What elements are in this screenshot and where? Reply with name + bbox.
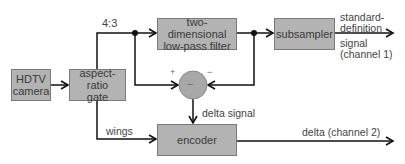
junction-dot-2 xyxy=(251,30,257,36)
encoder-label: encoder xyxy=(177,134,217,146)
junction-dot-1 xyxy=(132,30,138,36)
ratio-label: 4:3 xyxy=(102,18,117,29)
encoder-block: encoder xyxy=(157,124,237,156)
wings-label: wings xyxy=(106,126,133,137)
camera-label-line2: camera xyxy=(13,85,50,97)
delta-signal-label: delta signal xyxy=(202,108,255,119)
subsampler-label: subsampler xyxy=(276,28,333,40)
subsampler-block: subsampler xyxy=(274,18,335,50)
hdtv-camera-block: HDTVcamera xyxy=(11,69,51,101)
arrow-gate-to-filter xyxy=(97,33,156,69)
filter-label-line1: two-dimensional xyxy=(158,16,236,40)
aspect-ratio-gate-block: aspect-ratiogate xyxy=(69,69,126,101)
minus-sign: − xyxy=(207,67,212,78)
plus-sign: + xyxy=(170,67,175,78)
gate-label-line1: aspect-ratio xyxy=(70,67,125,91)
gate-label-line2: gate xyxy=(70,91,125,103)
subtractor-sign: − xyxy=(187,79,193,90)
camera-label-line1: HDTV xyxy=(13,73,50,85)
output1-line2: definition xyxy=(340,23,382,34)
filter-label-line2: low-pass filter xyxy=(158,40,236,52)
output2-label: delta (channel 2) xyxy=(302,127,380,138)
low-pass-filter-block: two-dimensionallow-pass filter xyxy=(157,18,237,50)
output1-line4: (channel 1) xyxy=(340,49,393,60)
